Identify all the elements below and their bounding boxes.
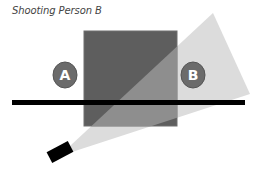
camera-setup-diagram: A B [0,0,257,173]
person-b-label: B [188,67,199,83]
axis-line [12,100,245,105]
person-a-label: A [60,67,71,83]
person-b: B [181,62,205,88]
camera-icon [47,141,74,163]
person-a: A [53,62,77,88]
